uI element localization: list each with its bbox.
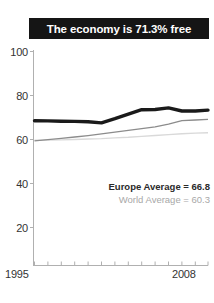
y-tick-label-80: 80: [2, 90, 28, 102]
x-tick-label-last: 2008: [172, 268, 196, 280]
y-tick-marks: [30, 52, 34, 228]
x-tick-label-first: 1995: [5, 268, 29, 280]
chart-plot-area: [0, 0, 214, 303]
y-tick-label-20: 20: [2, 222, 28, 234]
legend-world-average: World Average = 60.3: [84, 193, 210, 206]
legend-europe-average: Europe Average = 66.8: [84, 180, 210, 193]
y-tick-label-100: 100: [2, 46, 28, 58]
y-tick-label-40: 40: [2, 178, 28, 190]
world-average-line: [35, 133, 209, 141]
chart-legend: Europe Average = 66.8 World Average = 60…: [84, 180, 210, 206]
x-tick-marks: [35, 262, 209, 266]
economy-freedom-chart: The economy is 71.3% free: [0, 0, 214, 303]
y-tick-label-60: 60: [2, 134, 28, 146]
